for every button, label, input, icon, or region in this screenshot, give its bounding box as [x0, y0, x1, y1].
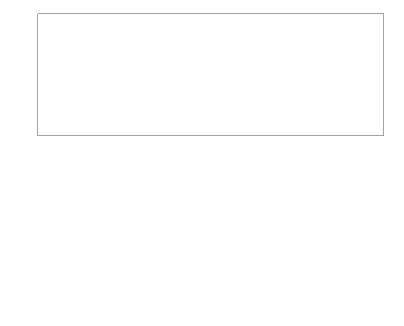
- figure-panel: [0, 0, 404, 326]
- subplot-bottom: [0, 163, 404, 326]
- bottom-chart-svg: [0, 163, 404, 326]
- top-axis-box: [38, 14, 384, 136]
- top-axes: [38, 14, 384, 136]
- subplot-top: [0, 0, 404, 163]
- top-chart-svg: [0, 0, 404, 163]
